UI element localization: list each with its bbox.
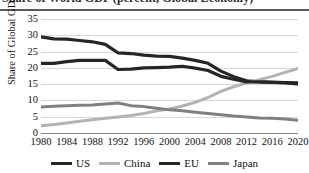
legend-label: EU bbox=[184, 157, 199, 169]
y-tick-label: 30 bbox=[16, 30, 38, 40]
title-divider bbox=[0, 9, 309, 11]
series-line-japan bbox=[41, 103, 298, 120]
y-tick-label: 5 bbox=[16, 112, 38, 122]
y-axis-tick-labels: 05101520253035 bbox=[16, 13, 38, 139]
legend-swatch-icon bbox=[208, 162, 229, 165]
plot-area bbox=[41, 19, 298, 133]
y-tick-label: 10 bbox=[16, 95, 38, 105]
chart-title: Share of World GDP (percent, Global Econ… bbox=[2, 0, 253, 6]
chart-figure: Share of World GDP (percent, Global Econ… bbox=[0, 0, 309, 173]
x-tick-label: 2020 bbox=[283, 136, 309, 147]
x-axis-tick-labels: 1980198419881992199620002004200820122016… bbox=[29, 136, 309, 150]
legend-item-us[interactable]: US bbox=[51, 157, 90, 169]
y-tick-label: 20 bbox=[16, 63, 38, 73]
legend-swatch-icon bbox=[99, 162, 120, 165]
y-tick-label: 25 bbox=[16, 47, 38, 57]
legend-label: China bbox=[124, 157, 150, 169]
legend-item-japan[interactable]: Japan bbox=[208, 157, 258, 169]
chart-title-strip: Share of World GDP (percent, Global Econ… bbox=[0, 0, 309, 9]
legend-swatch-icon bbox=[51, 162, 72, 165]
legend-swatch-icon bbox=[159, 162, 180, 165]
legend-label: Japan bbox=[233, 157, 258, 169]
y-tick-label: 15 bbox=[16, 79, 38, 89]
chart-legend: USChinaEUJapan bbox=[0, 155, 309, 171]
legend-item-eu[interactable]: EU bbox=[159, 157, 199, 169]
legend-item-china[interactable]: China bbox=[99, 157, 150, 169]
y-tick-label: 35 bbox=[16, 14, 38, 24]
legend-label: US bbox=[76, 157, 90, 169]
gridline bbox=[41, 133, 298, 134]
series-lines bbox=[41, 19, 298, 133]
